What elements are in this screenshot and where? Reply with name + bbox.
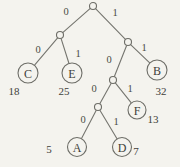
edge-bit-label-n-right-left-to-F: 1 [127,83,132,94]
node-letter-E: E [68,67,75,81]
node-weight-B: 32 [156,85,167,97]
node-letter-D: D [118,141,127,155]
node-letter-F: F [134,104,141,118]
node-letter-A: A [73,141,82,155]
tree-edge-n-right-to-n-right-left [114,46,126,77]
binary-tree-svg: 0101010101C18E25B32F13A5D7 [0,0,180,167]
tree-edge-n-left-to-E [61,39,69,63]
internal-node-n-bottom [95,104,102,111]
node-letter-B: B [153,64,161,78]
internal-node-n-right [125,39,132,46]
node-weight-C: 18 [9,85,21,97]
huffman-tree-diagram: 0101010101C18E25B32F13A5D7 [0,0,180,167]
edge-bit-label-n-bottom-to-D: 1 [113,116,118,127]
edge-bit-label-n-right-to-B: 1 [141,42,146,53]
edge-bit-label-n-right-to-n-right-left: 0 [106,54,111,65]
node-weight-E: 25 [59,85,71,97]
edge-bit-label-root-to-n-left: 0 [63,6,68,17]
edge-bit-label-n-left-to-C: 0 [35,44,40,55]
edge-bit-label-n-right-left-to-n-bottom: 0 [91,83,96,94]
edge-bit-label-root-to-n-right: 1 [112,7,117,18]
internal-node-n-right-left [110,77,117,84]
tree-edge-n-right-to-B [131,45,150,63]
node-letter-C: C [24,67,32,81]
node-weight-F: 13 [148,113,160,125]
node-weight-A: 5 [46,143,52,155]
internal-node-root [90,3,97,10]
edge-bit-label-n-bottom-to-A: 0 [80,114,85,125]
edge-bit-label-n-left-to-E: 1 [75,48,80,59]
internal-node-n-left [57,32,64,39]
tree-edge-n-right-left-to-n-bottom [100,84,111,104]
tree-edge-root-to-n-right [96,9,125,39]
node-weight-D: 7 [133,145,139,157]
